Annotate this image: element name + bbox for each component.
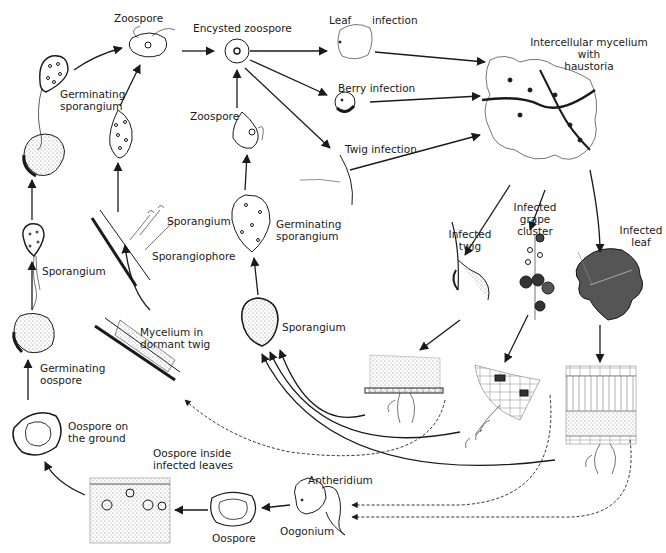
leaf-infection-illustration xyxy=(338,24,372,58)
label-oospore: Oospore xyxy=(212,532,256,544)
label-berry-infection: Berry infection xyxy=(338,82,415,94)
germinating-oospore-lower-illustration xyxy=(14,313,55,352)
label-intercellular-line-1: Intercellular mycelium xyxy=(524,36,654,48)
label-line-2: grape xyxy=(510,213,560,225)
sporangium-left-illustration xyxy=(23,224,44,310)
label-infected-twig: Infected twig xyxy=(440,228,500,252)
label-leaf-infection-2: infection xyxy=(372,14,418,26)
berry-lesion-section-illustration xyxy=(466,365,541,448)
label-line-2: twig xyxy=(440,240,500,252)
label-line-1: Germinating xyxy=(40,362,105,374)
label-line-1: Infected xyxy=(510,201,560,213)
label-intercellular-line-2: with xyxy=(524,48,654,60)
label-germinating-sporangium-left: Germinating sporangium xyxy=(60,88,125,112)
label-intercellular-mycelium: Intercellular mycelium with haustoria xyxy=(524,36,654,72)
label-oospore-on-ground: Oospore on the ground xyxy=(68,420,128,444)
label-germinating-sporangium-mid: Germinating sporangium xyxy=(276,218,341,242)
twig-lesion-section-illustration xyxy=(365,355,443,423)
label-antheridium: Antheridium xyxy=(308,474,373,486)
label-zoospore-top: Zoospore xyxy=(114,12,163,24)
label-line-2: the ground xyxy=(68,432,128,444)
label-sporangium-branch: Sporangium xyxy=(167,215,231,227)
label-line-2: sporangium xyxy=(276,230,341,242)
oospore-on-ground-illustration xyxy=(13,413,61,455)
label-line-1: Germinating xyxy=(276,218,341,230)
label-infected-grape-cluster: Infected grape cluster xyxy=(510,201,560,237)
label-line-2: dormant twig xyxy=(140,338,210,350)
germinating-oospore-upper-illustration xyxy=(24,134,65,176)
label-line-1: Germinating xyxy=(60,88,125,100)
label-line-1: Oospore inside xyxy=(153,447,233,459)
germinating-sporangium-center-left-illustration xyxy=(110,110,133,158)
germinating-sporangium-middle-illustration xyxy=(232,195,270,252)
infected-leaf-illustration xyxy=(576,249,643,320)
twig-infection-illustration xyxy=(300,155,353,205)
label-sporangiophore: Sporangiophore xyxy=(152,250,235,262)
label-sporangium-left: Sporangium xyxy=(42,265,106,277)
leaf-lesion-section-illustration xyxy=(566,366,636,474)
label-line-1: Mycelium in xyxy=(140,326,210,338)
label-oospore-inside-leaves: Oospore inside infected leaves xyxy=(153,447,233,471)
oospore-inside-leaves-illustration xyxy=(90,478,170,543)
label-zoospore-mid: Zoospore xyxy=(190,110,239,122)
zoospore-top-illustration xyxy=(129,26,175,57)
label-line-1: Infected xyxy=(616,224,666,236)
encysted-zoospore-illustration xyxy=(225,39,249,63)
berry-infection-illustration xyxy=(335,92,355,112)
dashed-arrows xyxy=(185,395,631,517)
label-line-1: Infected xyxy=(440,228,500,240)
label-line-2: oospore xyxy=(40,374,105,386)
label-line-1: Oospore on xyxy=(68,420,128,432)
label-encysted-zoospore: Encysted zoospore xyxy=(193,22,292,34)
label-line-2: leaf xyxy=(616,236,666,248)
label-mycelium-dormant-twig: Mycelium in dormant twig xyxy=(140,326,210,350)
label-leaf-infection-1: Leaf xyxy=(329,14,351,26)
label-germinating-oospore: Germinating oospore xyxy=(40,362,105,386)
oospore-illustration xyxy=(211,492,256,526)
label-sporangium-mid: Sporangium xyxy=(282,321,346,333)
label-line-3: cluster xyxy=(510,225,560,237)
label-oogonium: Oogonium xyxy=(280,525,334,537)
label-twig-infection: Twig infection xyxy=(345,143,417,155)
sporangium-middle-illustration xyxy=(242,298,278,346)
label-line-2: infected leaves xyxy=(153,459,233,471)
label-intercellular-line-3: haustoria xyxy=(524,60,654,72)
infected-grape-cluster-illustration xyxy=(520,234,554,320)
label-line-2: sporangium xyxy=(60,100,125,112)
label-infected-leaf: Infected leaf xyxy=(616,224,666,248)
